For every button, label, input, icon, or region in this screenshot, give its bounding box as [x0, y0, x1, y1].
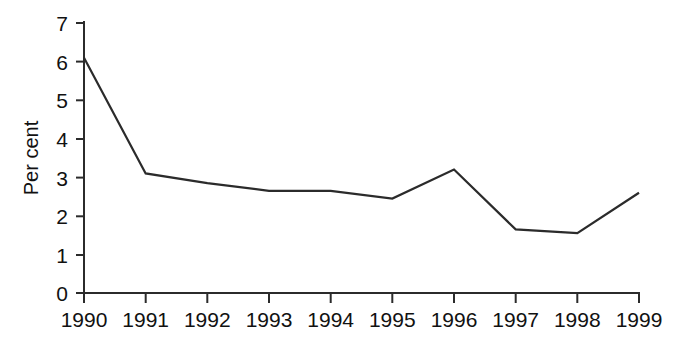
x-tick-label-1990: 1990 [61, 308, 108, 331]
y-tick-label-0: 0 [56, 282, 68, 305]
x-tick-label-1997: 1997 [492, 308, 539, 331]
x-tick-label-1991: 1991 [122, 308, 169, 331]
x-axis-ticks [84, 293, 639, 303]
x-tick-label-1999: 1999 [616, 308, 663, 331]
x-tick-label-1998: 1998 [554, 308, 601, 331]
line-chart-figure: 7 6 5 4 3 2 1 0 Per cent 1990 1991 [0, 0, 688, 354]
x-tick-label-1992: 1992 [184, 308, 231, 331]
chart-canvas: 7 6 5 4 3 2 1 0 Per cent 1990 1991 [0, 0, 688, 354]
x-axis-tick-labels: 1990 1991 1992 1993 1994 1995 1996 1997 … [61, 308, 663, 331]
x-tick-label-1993: 1993 [246, 308, 293, 331]
x-tick-label-1994: 1994 [307, 308, 354, 331]
x-tick-label-1995: 1995 [369, 308, 416, 331]
y-axis-tick-labels: 7 6 5 4 3 2 1 0 [56, 12, 68, 305]
y-tick-label-5: 5 [56, 89, 68, 112]
x-tick-label-1996: 1996 [431, 308, 478, 331]
y-axis-title: Per cent [20, 120, 42, 195]
y-tick-label-3: 3 [56, 167, 68, 190]
y-tick-label-7: 7 [56, 12, 68, 35]
data-series-per-cent [84, 58, 639, 234]
y-tick-label-6: 6 [56, 51, 68, 74]
y-tick-label-1: 1 [56, 244, 68, 267]
y-tick-label-4: 4 [56, 128, 68, 151]
y-axis-ticks [76, 23, 84, 293]
y-tick-label-2: 2 [56, 205, 68, 228]
